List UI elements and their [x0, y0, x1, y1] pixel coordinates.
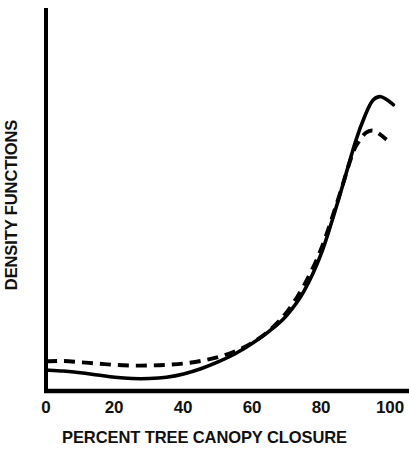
x-tick-label-80: 80: [312, 398, 331, 418]
x-tick-label-100: 100: [376, 398, 404, 418]
x-axis-title: PERCENT TREE CANOPY CLOSURE: [0, 428, 409, 447]
x-tick-label-60: 60: [243, 398, 262, 418]
x-tick-label-40: 40: [174, 398, 193, 418]
x-tick-label-20: 20: [105, 398, 124, 418]
chart-figure: 0 20 40 60 80 100 PERCENT TREE CANOPY CL…: [0, 0, 409, 460]
y-axis-title: DENSITY FUNCTIONS: [2, 95, 21, 315]
density-functions-plot: [0, 0, 409, 460]
density-curve-dashed: [46, 130, 387, 365]
density-curve-solid: [46, 97, 393, 379]
x-tick-label-0: 0: [41, 398, 50, 418]
